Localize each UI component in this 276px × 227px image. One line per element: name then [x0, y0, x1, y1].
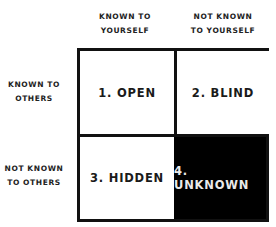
row-header-line: OTHERS	[0, 92, 68, 106]
row-header-known-to-others: KNOWN TO OTHERS	[0, 78, 68, 106]
column-header-line: NOT KNOWN	[183, 10, 263, 24]
row-header-line: NOT KNOWN	[0, 162, 68, 176]
row-header-not-known-to-others: NOT KNOWN TO OTHERS	[0, 162, 68, 190]
column-header-line: YOURSELF	[90, 24, 160, 38]
column-header-line: TO YOURSELF	[183, 24, 263, 38]
quadrant-blind: 2. BLIND	[177, 51, 269, 134]
row-header-line: KNOWN TO	[0, 78, 68, 92]
quadrant-open: 1. OPEN	[80, 51, 174, 134]
column-header-known-to-yourself: KNOWN TO YOURSELF	[90, 10, 160, 38]
johari-window-grid: 1. OPEN 2. BLIND 3. HIDDEN 4. UNKNOWN	[77, 48, 269, 222]
quadrant-hidden: 3. HIDDEN	[80, 137, 174, 219]
column-header-not-known-to-yourself: NOT KNOWN TO YOURSELF	[183, 10, 263, 38]
row-header-line: TO OTHERS	[0, 176, 68, 190]
column-header-line: KNOWN TO	[90, 10, 160, 24]
quadrant-unknown: 4. UNKNOWN	[174, 137, 266, 219]
